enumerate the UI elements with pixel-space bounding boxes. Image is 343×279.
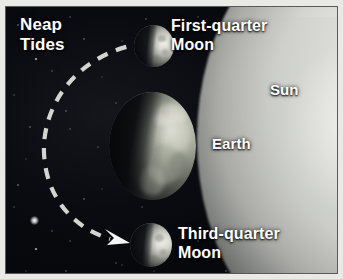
moon-terminator — [130, 223, 172, 267]
earth-globe — [109, 92, 196, 200]
third-quarter-moon-body — [126, 219, 176, 271]
earth-body — [102, 83, 203, 209]
space-scene: Neap Tides First-quarter Moon Sun Earth … — [5, 6, 338, 274]
sun-body — [197, 6, 338, 274]
star-icon — [30, 216, 39, 225]
moon-globe — [130, 223, 172, 267]
moon-terminator — [134, 25, 174, 67]
moon-globe — [134, 25, 174, 67]
neap-tides-figure: Neap Tides First-quarter Moon Sun Earth … — [0, 0, 343, 279]
earth-terminator — [109, 92, 196, 200]
first-quarter-moon-body — [130, 21, 178, 71]
